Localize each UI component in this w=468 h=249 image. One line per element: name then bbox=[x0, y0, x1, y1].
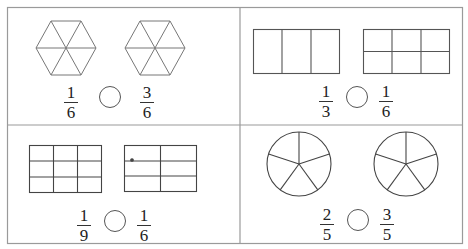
fraction-right: 3 6 bbox=[137, 84, 157, 121]
fraction-left: 1 3 bbox=[316, 83, 336, 120]
denominator: 5 bbox=[377, 225, 397, 243]
fraction-left: 1 6 bbox=[61, 84, 81, 121]
denominator: 6 bbox=[137, 103, 157, 121]
hexagon-left bbox=[36, 21, 96, 75]
denominator: 9 bbox=[74, 226, 94, 244]
fraction-right: 3 5 bbox=[377, 206, 397, 243]
compare-circle[interactable] bbox=[347, 209, 369, 231]
grid-ninths bbox=[30, 146, 102, 193]
numerator: 1 bbox=[61, 84, 81, 102]
denominator: 5 bbox=[317, 225, 337, 243]
numerator: 3 bbox=[377, 206, 397, 224]
numerator: 1 bbox=[134, 207, 154, 225]
circle-fifths-right bbox=[374, 132, 438, 196]
numerator: 3 bbox=[137, 84, 157, 102]
numerator: 1 bbox=[74, 207, 94, 225]
worksheet-figures bbox=[0, 0, 468, 249]
fraction-right: 1 6 bbox=[376, 83, 396, 120]
denominator: 6 bbox=[61, 103, 81, 121]
rectangle-thirds bbox=[254, 30, 340, 74]
circle-fifths-left bbox=[267, 132, 331, 196]
compare-circle[interactable] bbox=[104, 210, 126, 232]
compare-circle[interactable] bbox=[99, 86, 121, 108]
numerator: 1 bbox=[376, 83, 396, 101]
denominator: 6 bbox=[134, 226, 154, 244]
rectangle-sixths bbox=[364, 30, 450, 74]
denominator: 3 bbox=[316, 102, 336, 120]
hexagon-right bbox=[125, 21, 185, 75]
compare-circle[interactable] bbox=[346, 86, 368, 108]
denominator: 6 bbox=[376, 102, 396, 120]
grid-sixths bbox=[125, 146, 197, 192]
fraction-left: 2 5 bbox=[317, 206, 337, 243]
fraction-left: 1 9 bbox=[74, 207, 94, 244]
numerator: 1 bbox=[316, 83, 336, 101]
fraction-right: 1 6 bbox=[134, 207, 154, 244]
numerator: 2 bbox=[317, 206, 337, 224]
